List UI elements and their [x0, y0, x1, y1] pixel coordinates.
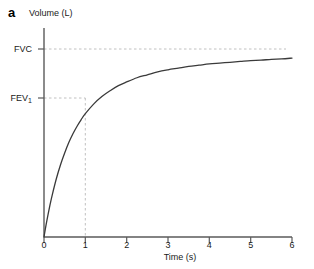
y-tick-label-fev1: FEV1: [2, 93, 32, 103]
x-tick-label-3: 3: [165, 240, 170, 250]
volume-time-curve: [44, 58, 292, 237]
x-tick-label-4: 4: [207, 240, 212, 250]
x-tick-label-5: 5: [248, 240, 253, 250]
x-tick-label-0: 0: [41, 240, 46, 250]
x-tick-label-2: 2: [124, 240, 129, 250]
spirometry-plot: [0, 0, 314, 269]
x-tick-label-1: 1: [83, 240, 88, 250]
x-tick-label-6: 6: [289, 240, 294, 250]
x-axis-title: Time (s): [164, 252, 197, 262]
figure-panel: a Volume (L) FVC FEV1: [0, 0, 314, 269]
y-tick-label-fvc: FVC: [6, 44, 32, 54]
x-axis-title-wrap: Time (s): [0, 252, 314, 262]
y-axis-ticks: [38, 49, 44, 98]
